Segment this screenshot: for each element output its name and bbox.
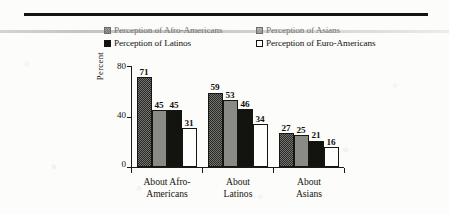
legend-item-euro-americans: Perception of Euro-Americans (256, 37, 424, 50)
medium-gray-icon (256, 27, 263, 34)
legend-item-asians: Perception of Asians (256, 24, 424, 37)
legend-label-euro-americans: Perception of Euro-Americans (266, 37, 375, 50)
y-tick-label-40: 40 (104, 110, 126, 120)
legend-item-latinos: Perception of Latinos (104, 37, 256, 50)
bar-g0-euro-americans (182, 128, 197, 167)
x-category-label-line1: About (264, 176, 354, 188)
bar-g2-euro-americans (324, 147, 339, 167)
x-axis-line (131, 167, 344, 168)
legend-item-afro-americans: Perception of Afro-Americans (104, 24, 256, 37)
bar-g0-afro-americans (137, 77, 152, 167)
dither-dark-gray-icon (104, 27, 111, 34)
chart-legend: Perception of Afro-Americans Perception … (104, 24, 424, 50)
legend-label-asians: Perception of Asians (266, 24, 340, 37)
value-label-g1-latinos: 46 (234, 99, 256, 109)
bar-g1-euro-americans (253, 124, 268, 167)
x-tick-mark-start (131, 168, 132, 173)
bar-group-about-afro-americans (131, 66, 202, 167)
legend-label-latinos: Perception of Latinos (114, 37, 191, 50)
figure-page: Perception of Afro-Americans Perception … (0, 0, 449, 214)
value-label-g0-euro-americans: 31 (178, 118, 200, 128)
value-label-g1-euro-americans: 34 (249, 114, 271, 124)
value-label-g0-latinos: 45 (163, 100, 185, 110)
bar-group-about-asians (273, 66, 344, 167)
value-label-g0-afro-americans: 71 (133, 67, 155, 77)
x-tick-mark-end (344, 168, 345, 173)
legend-label-afro-americans: Perception of Afro-Americans (114, 24, 222, 37)
bar-plot-area (131, 66, 344, 167)
top-horizontal-rule (24, 13, 428, 16)
bar-g2-afro-americans (279, 133, 294, 167)
x-category-label-line2: Asians (264, 188, 354, 200)
white-outline-icon (256, 40, 263, 47)
bar-g1-afro-americans (208, 93, 223, 168)
x-category-label-about-asians: About Asians (264, 176, 354, 200)
x-tick-mark-1 (202, 168, 203, 173)
value-label-g2-euro-americans: 16 (320, 137, 342, 147)
x-tick-mark-2 (273, 168, 274, 173)
bar-g0-asians (152, 110, 167, 167)
y-tick-label-80: 80 (104, 61, 126, 71)
bar-g2-asians (294, 135, 309, 167)
solid-black-icon (104, 40, 111, 47)
y-tick-label-0: 0 (104, 159, 126, 169)
bar-g1-asians (223, 100, 238, 167)
